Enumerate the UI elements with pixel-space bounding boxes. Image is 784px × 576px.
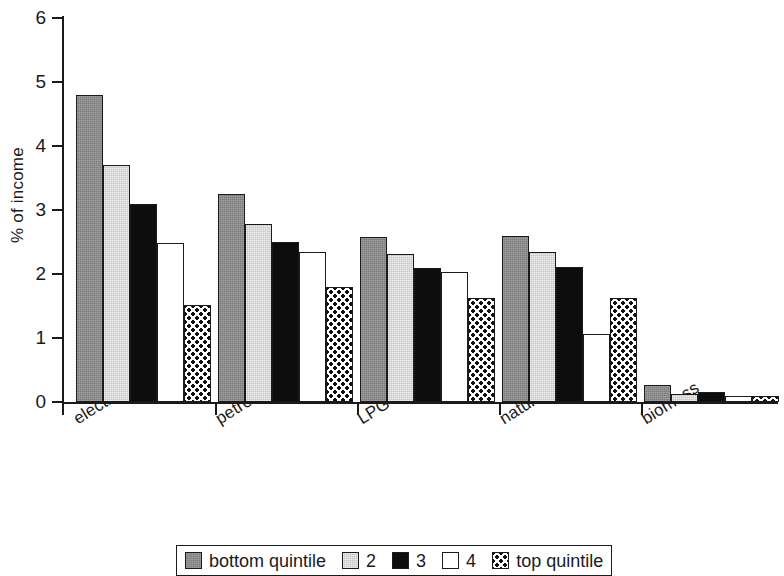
legend-entry: 3 — [392, 552, 426, 570]
bar — [130, 204, 157, 402]
bar — [752, 396, 779, 402]
x-axis-tick-origin — [62, 404, 64, 415]
y-axis-tick — [52, 401, 62, 403]
legend-entry: 4 — [442, 552, 476, 570]
y-axis-tick-label: 0 — [14, 392, 46, 411]
y-axis-tick-label: 4 — [14, 136, 46, 155]
bar — [387, 254, 414, 402]
legend-label: 4 — [466, 552, 476, 570]
bar — [556, 267, 583, 402]
y-axis-tick — [52, 17, 62, 19]
bar — [360, 237, 387, 402]
bar — [502, 236, 529, 402]
legend-swatch — [342, 552, 359, 569]
legend-swatch — [492, 552, 509, 569]
legend-swatch — [442, 552, 459, 569]
plot-area — [62, 18, 776, 402]
legend-entry: 2 — [342, 552, 376, 570]
bar — [529, 252, 556, 402]
legend-entry: bottom quintile — [185, 552, 326, 570]
bar — [299, 252, 326, 402]
y-axis-tick-label: 5 — [14, 72, 46, 91]
y-axis-tick — [52, 273, 62, 275]
y-axis-tick — [52, 209, 62, 211]
bar — [583, 334, 610, 402]
y-axis-tick-label: 6 — [14, 8, 46, 27]
bar — [414, 268, 441, 402]
bar — [671, 394, 698, 402]
y-axis-tick-label: 1 — [14, 328, 46, 347]
legend-label: 3 — [416, 552, 426, 570]
bar — [468, 298, 495, 402]
y-axis-tick — [52, 81, 62, 83]
y-axis-tick-label: 2 — [14, 264, 46, 283]
legend-label: top quintile — [516, 552, 603, 570]
bar — [157, 243, 184, 402]
bar — [644, 385, 671, 402]
y-axis-tick-label: 3 — [14, 200, 46, 219]
bar — [245, 224, 272, 402]
legend-swatch — [185, 552, 202, 569]
legend-label: 2 — [366, 552, 376, 570]
bar — [610, 298, 637, 402]
bar — [218, 194, 245, 402]
bar — [76, 95, 103, 402]
legend-entry: top quintile — [492, 552, 603, 570]
bar — [103, 165, 130, 402]
legend-swatch — [392, 552, 409, 569]
bar — [725, 396, 752, 402]
bar — [272, 242, 299, 402]
legend: bottom quintile234top quintile — [176, 545, 612, 576]
legend-label: bottom quintile — [209, 552, 326, 570]
bar — [326, 287, 353, 402]
bar-chart: % of income 0123456 electricitypetroleum… — [0, 0, 784, 576]
bar — [184, 305, 211, 402]
y-axis-tick — [52, 337, 62, 339]
bar — [441, 272, 468, 402]
bar — [698, 392, 725, 402]
y-axis-tick — [52, 145, 62, 147]
